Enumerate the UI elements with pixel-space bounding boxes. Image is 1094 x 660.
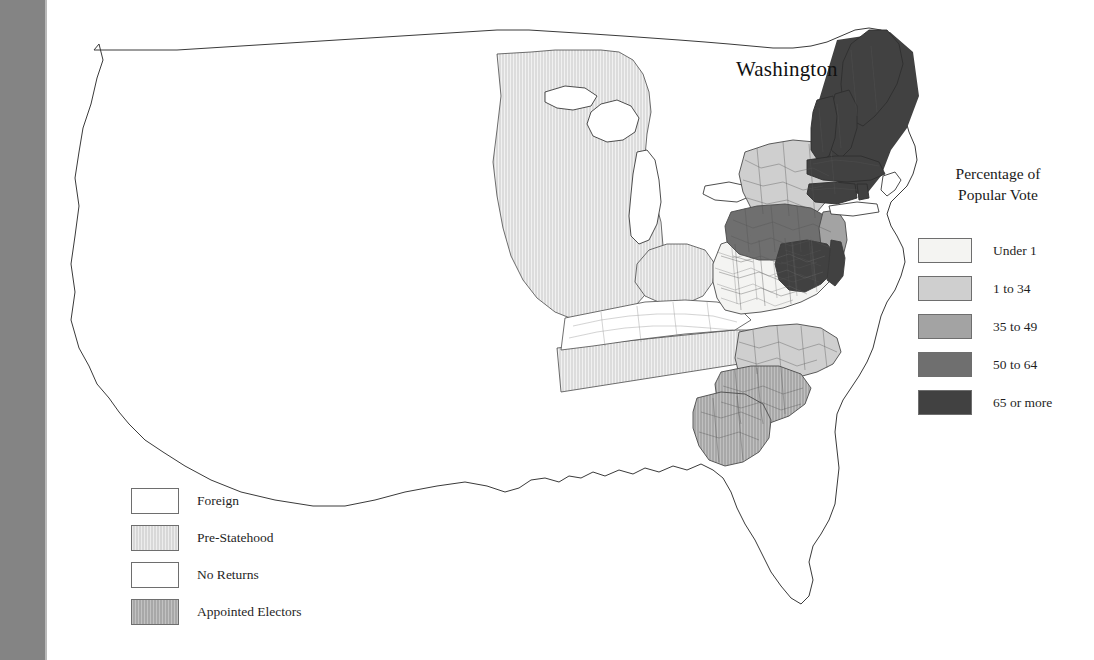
legend-item-50-to-64: 50 to 64 <box>918 348 1093 381</box>
legend-swatch-appointed-electors <box>131 599 179 625</box>
legend-swatch-pre-statehood <box>131 525 179 551</box>
legend-swatch-foreign <box>131 488 179 514</box>
legend-swatch-under-1 <box>918 238 972 263</box>
legend-label-foreign: Foreign <box>197 493 239 509</box>
vote-legend-title-line2: Popular Vote <box>918 184 1078 205</box>
legend-item-65-or-more: 65 or more <box>918 386 1093 419</box>
page-gutter <box>0 0 45 660</box>
vote-legend: Percentage of Popular Vote Under 1 1 to … <box>918 163 1093 424</box>
legend-item-appointed-electors: Appointed Electors <box>131 593 431 630</box>
legend-item-1-to-34: 1 to 34 <box>918 272 1093 305</box>
vote-legend-title: Percentage of Popular Vote <box>918 163 1078 205</box>
legend-swatch-35-to-49 <box>918 314 972 339</box>
legend-item-foreign: Foreign <box>131 482 431 519</box>
vote-legend-items: Under 1 1 to 34 35 to 49 50 to 64 65 or <box>918 234 1093 419</box>
legend-label-35-to-49: 35 to 49 <box>993 319 1037 335</box>
legend-label-under-1: Under 1 <box>993 243 1037 259</box>
legend-label-1-to-34: 1 to 34 <box>993 281 1031 297</box>
legend-label-appointed-electors: Appointed Electors <box>197 604 302 620</box>
region-rhode-island <box>857 184 869 200</box>
legend-label-pre-statehood: Pre-Statehood <box>197 530 274 546</box>
legend-item-under-1: Under 1 <box>918 234 1093 267</box>
legend-label-no-returns: No Returns <box>197 567 259 583</box>
region-connecticut <box>807 182 857 204</box>
legend-item-35-to-49: 35 to 49 <box>918 310 1093 343</box>
map-page: Washington Percentage of Popular Vote Un… <box>0 0 1094 660</box>
legend-label-50-to-64: 50 to 64 <box>993 357 1037 373</box>
map-stage: Washington Percentage of Popular Vote Un… <box>45 0 1094 660</box>
legend-swatch-65-or-more <box>918 390 972 415</box>
region-massachusetts <box>807 156 885 182</box>
legend-label-65-or-more: 65 or more <box>993 395 1052 411</box>
map-title: Washington <box>736 57 838 82</box>
legend-swatch-50-to-64 <box>918 352 972 377</box>
legend-swatch-no-returns <box>131 562 179 588</box>
legend-item-pre-statehood: Pre-Statehood <box>131 519 431 556</box>
legend-swatch-1-to-34 <box>918 276 972 301</box>
region-ohio-country <box>635 244 715 304</box>
status-legend: Foreign Pre-Statehood No Returns Appoint… <box>131 482 431 630</box>
legend-item-no-returns: No Returns <box>131 556 431 593</box>
vote-legend-title-line1: Percentage of <box>918 163 1078 184</box>
